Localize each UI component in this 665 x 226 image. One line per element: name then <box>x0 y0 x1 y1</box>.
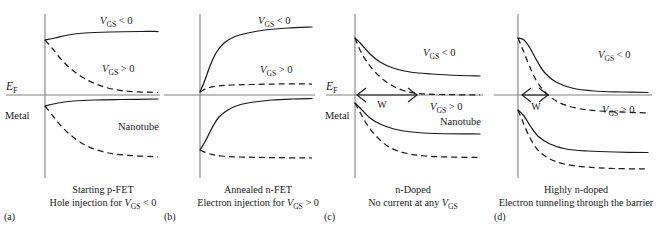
vgs-condition-label: VGS < 0 <box>423 47 456 61</box>
band-curve-valence-band-vgs-negative <box>45 99 158 106</box>
band-curve-conduction-band-vgs-negative <box>200 27 312 92</box>
band-curve-conduction-band-vgs-negative <box>45 31 158 40</box>
band-diagram-panel-a: VGS < 0VGS > 0EFMetalNanotubeStarting p-… <box>0 0 170 226</box>
band-diagram-panel-c: VGS < 0VGS > 0EFMetalNanotubeWn-DopedNo … <box>320 0 495 226</box>
panel-caption-line-2: No current at any VGS <box>368 197 458 211</box>
panel-letter: (b) <box>164 211 176 223</box>
fermi-level-label: EF <box>325 80 338 95</box>
vgs-condition-label: VGS > 0 <box>430 101 463 115</box>
band-curve-valence-band-vgs-negative <box>518 110 648 153</box>
barrier-width-label: W <box>377 99 387 110</box>
band-curve-valence-band-vgs-negative <box>200 99 312 151</box>
band-diagram-panel-b: VGS < 0VGS > 0Annealed n-FETElectron inj… <box>160 0 325 226</box>
band-diagram-panel-d: VGS < 0VGS > 0WHighly n-dopedElectron tu… <box>490 0 665 226</box>
panel-letter: (c) <box>324 211 335 223</box>
panel-caption-line-1: Highly n-doped <box>544 184 608 195</box>
panel-caption-line-1: Starting p-FET <box>72 184 134 195</box>
barrier-width-label: W <box>531 101 541 112</box>
band-curve-valence-band-vgs-positive <box>200 150 312 158</box>
band-curve-valence-band-vgs-positive <box>518 110 648 169</box>
panel-caption-line-2: Hole injection for VGS < 0 <box>50 197 157 211</box>
metal-region-label: Metal <box>5 110 30 121</box>
fermi-level-label: EF <box>5 80 18 95</box>
vgs-condition-label: VGS > 0 <box>102 63 135 77</box>
vgs-condition-label: VGS > 0 <box>260 64 293 78</box>
barrier-width-arrow <box>357 88 417 102</box>
barrier-width-arrow <box>522 88 548 102</box>
panel-letter: (d) <box>494 211 506 223</box>
panel-letter: (a) <box>4 211 15 223</box>
band-curve-conduction-band-vgs-negative <box>518 38 648 93</box>
panel-caption-line-1: Annealed n-FET <box>224 184 293 195</box>
metal-region-label: Metal <box>325 110 350 121</box>
band-curve-conduction-band-vgs-positive <box>200 84 312 92</box>
figure-root: VGS < 0VGS > 0EFMetalNanotubeStarting p-… <box>0 0 665 226</box>
panel-caption-line-2: Electron injection for VGS > 0 <box>197 197 319 211</box>
vgs-condition-label: VGS < 0 <box>258 15 291 29</box>
nanotube-region-label: Nanotube <box>118 121 159 132</box>
panel-caption-line-2: Electron tunneling through the barrier <box>499 197 654 208</box>
vgs-condition-label: VGS < 0 <box>598 49 631 63</box>
panel-caption-line-1: n-Doped <box>395 184 431 195</box>
band-curve-conduction-band-vgs-negative <box>355 38 480 76</box>
nanotube-region-label: Nanotube <box>440 116 481 127</box>
band-curve-conduction-band-vgs-positive <box>355 38 480 95</box>
vgs-condition-label: VGS < 0 <box>100 15 133 29</box>
vgs-condition-label: VGS > 0 <box>602 104 635 118</box>
